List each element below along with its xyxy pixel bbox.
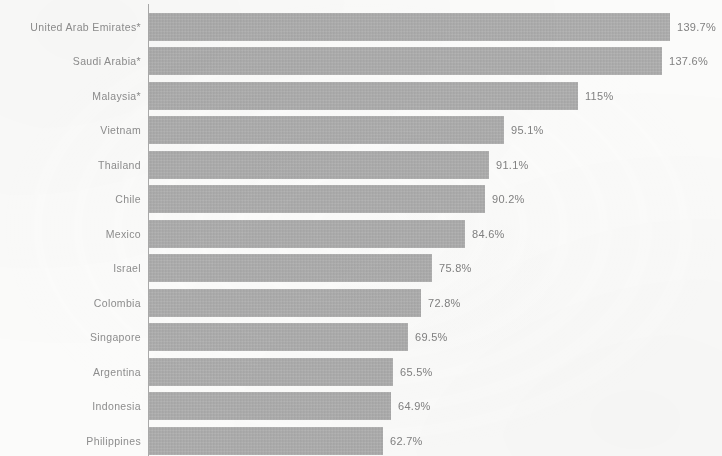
bar-value-label: 84.6%: [472, 228, 505, 240]
bar: [149, 220, 465, 248]
category-label: Chile: [115, 193, 141, 205]
category-label: Malaysia*: [92, 90, 141, 102]
bar-value-label: 95.1%: [511, 124, 544, 136]
category-label: Mexico: [106, 228, 141, 240]
bar-value-label: 72.8%: [428, 297, 461, 309]
bar: [149, 254, 432, 282]
bar-chart: United Arab Emirates*139.7%Saudi Arabia*…: [0, 0, 722, 456]
bar-value-label: 139.7%: [677, 21, 716, 33]
bar-value-label: 62.7%: [390, 435, 423, 447]
bar-row: United Arab Emirates*139.7%: [0, 10, 722, 45]
category-label: Israel: [113, 262, 141, 274]
category-label: Singapore: [90, 331, 141, 343]
bar-row: Singapore69.5%: [0, 320, 722, 355]
bar-row: Colombia72.8%: [0, 286, 722, 321]
bar-row: Saudi Arabia*137.6%: [0, 44, 722, 79]
category-label: Colombia: [94, 297, 141, 309]
bar-row: Mexico84.6%: [0, 217, 722, 252]
bar-value-label: 137.6%: [669, 55, 708, 67]
bar: [149, 47, 662, 75]
bar: [149, 323, 408, 351]
bar-row: Indonesia64.9%: [0, 389, 722, 424]
category-label: United Arab Emirates*: [30, 21, 141, 33]
bar: [149, 358, 393, 386]
category-label: Thailand: [98, 159, 141, 171]
bar-row: Israel75.8%: [0, 251, 722, 286]
category-label: Vietnam: [100, 124, 141, 136]
category-label: Philippines: [86, 435, 141, 447]
category-label: Saudi Arabia*: [73, 55, 141, 67]
bar: [149, 151, 489, 179]
bar: [149, 427, 383, 455]
bar-row: Vietnam95.1%: [0, 113, 722, 148]
bar: [149, 82, 578, 110]
bar-value-label: 65.5%: [400, 366, 433, 378]
bar-value-label: 91.1%: [496, 159, 529, 171]
plot-area: United Arab Emirates*139.7%Saudi Arabia*…: [0, 0, 722, 456]
bar: [149, 116, 504, 144]
bar-value-label: 69.5%: [415, 331, 448, 343]
bar-row: Thailand91.1%: [0, 148, 722, 183]
bar-value-label: 90.2%: [492, 193, 525, 205]
bar-row: Malaysia*115%: [0, 79, 722, 114]
bar-row: Argentina65.5%: [0, 355, 722, 390]
bar-value-label: 64.9%: [398, 400, 431, 412]
bar: [149, 185, 485, 213]
category-label: Indonesia: [92, 400, 141, 412]
category-label: Argentina: [93, 366, 141, 378]
bar-row: Chile90.2%: [0, 182, 722, 217]
bar: [149, 289, 421, 317]
bar: [149, 392, 391, 420]
bar: [149, 13, 670, 41]
bar-value-label: 115%: [585, 90, 614, 102]
bar-row: Philippines62.7%: [0, 424, 722, 456]
bar-value-label: 75.8%: [439, 262, 472, 274]
